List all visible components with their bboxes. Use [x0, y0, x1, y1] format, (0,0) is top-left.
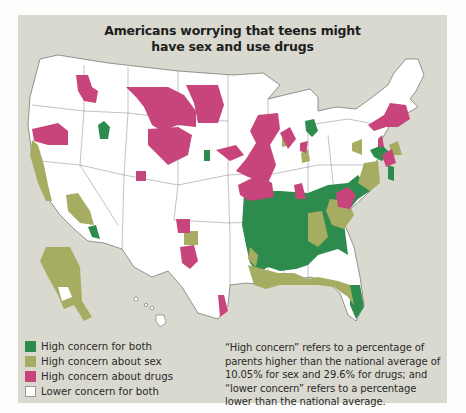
us-choropleth-map — [18, 15, 447, 335]
legend-label: High concern about drugs — [41, 371, 173, 382]
legend-label: Lower concern for both — [41, 386, 159, 397]
legend-label: High concern for both — [41, 341, 152, 352]
legend-label: High concern about sex — [41, 356, 162, 367]
swatch-high-both — [25, 341, 36, 352]
map-legend: High concern for both High concern about… — [25, 339, 173, 399]
hawaii-inset — [134, 297, 166, 327]
legend-item-lower-both: Lower concern for both — [25, 384, 173, 399]
legend-item-high-drugs: High concern about drugs — [25, 369, 173, 384]
swatch-high-drugs — [25, 371, 36, 382]
swatch-high-sex — [25, 356, 36, 367]
legend-item-high-sex: High concern about sex — [25, 354, 173, 369]
figure-panel: Americans worrying that teens might have… — [18, 15, 447, 403]
legend-item-high-both: High concern for both — [25, 339, 173, 354]
definition-note: “High concern” refers to a percentage of… — [225, 341, 443, 409]
swatch-lower-both — [25, 386, 36, 397]
